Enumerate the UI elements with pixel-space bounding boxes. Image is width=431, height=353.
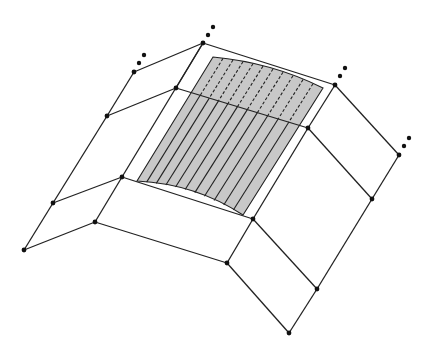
continuation-dot-E — [338, 74, 342, 78]
node-F — [397, 153, 402, 158]
node-H — [120, 175, 125, 180]
node-C — [174, 86, 179, 91]
edge-D-C — [107, 88, 176, 116]
edge-B-D — [107, 72, 134, 116]
continuation-dot-B — [142, 53, 146, 57]
node-O — [287, 331, 292, 336]
edge-M-O — [227, 263, 289, 333]
edge-A-B — [134, 43, 203, 72]
edge-G-P — [308, 128, 372, 199]
continuation-dot-E — [343, 66, 347, 70]
edge-F-P — [372, 155, 399, 199]
node-I — [51, 201, 56, 206]
edge-J-M — [95, 222, 227, 263]
edge-H-J — [95, 177, 122, 222]
edge-I-H — [53, 177, 122, 203]
edge-P-N — [317, 199, 372, 289]
edge-D-I — [53, 116, 107, 203]
continuation-dot-F — [402, 144, 406, 148]
node-E — [333, 83, 338, 88]
node-P — [370, 197, 375, 202]
node-N — [315, 287, 320, 292]
edge-E-F — [335, 85, 399, 155]
continuation-dot-A — [206, 33, 210, 37]
node-M — [225, 261, 230, 266]
edge-L-M — [227, 219, 253, 263]
node-A — [201, 41, 206, 46]
edge-I-K — [24, 203, 53, 250]
node-L — [251, 217, 256, 222]
mesh-diagram — [0, 0, 431, 353]
node-D — [105, 114, 110, 119]
node-B — [132, 70, 137, 75]
continuation-dot-B — [137, 61, 141, 65]
node-G — [306, 126, 311, 131]
continuation-dot-A — [211, 25, 215, 29]
edge-L-N — [253, 219, 317, 289]
edge-J-K — [24, 222, 95, 250]
continuation-dot-F — [407, 136, 411, 140]
node-K — [22, 248, 27, 253]
node-J — [93, 220, 98, 225]
edge-N-O — [289, 289, 317, 333]
